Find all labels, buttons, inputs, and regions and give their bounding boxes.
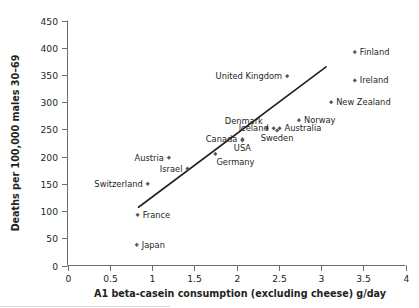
y-tick-label: 250: [40, 124, 58, 135]
data-point: Germany: [213, 152, 254, 167]
y-tick-label: 400: [40, 43, 58, 54]
data-point-marker: [136, 213, 140, 217]
y-tick-label: 300: [40, 97, 58, 108]
x-tick-label: 3.5: [356, 273, 371, 284]
data-point-marker: [146, 182, 150, 186]
data-point-marker: [167, 156, 171, 160]
x-tick-label: 2.5: [272, 273, 287, 284]
data-point: Ireland: [353, 75, 389, 85]
chart-canvas: 050100150200250300350400450 00.511.522.5…: [0, 0, 419, 308]
data-point: New Zealand: [329, 97, 391, 107]
data-point-label: USA: [234, 143, 251, 153]
data-point-label: Iceland: [239, 123, 269, 133]
y-tick-labels: 050100150200250300350400450: [40, 16, 58, 272]
y-tick-marks: [62, 22, 68, 267]
data-points-layer: FinlandIrelandNew ZealandUnited KingdomN…: [94, 47, 390, 250]
x-tick-labels: 00.511.522.533.54: [66, 273, 410, 284]
data-point-label: United Kingdom: [216, 71, 283, 81]
data-point-label: Israel: [160, 164, 183, 174]
x-tick-label: 1: [150, 273, 156, 284]
x-tick-label: 0.5: [103, 273, 118, 284]
data-point-label: Finland: [360, 47, 390, 57]
data-point-marker: [297, 118, 301, 122]
x-tick-label: 0: [66, 273, 72, 284]
data-point: France: [136, 210, 171, 220]
data-point: Australia: [277, 123, 321, 133]
y-tick-label: 50: [46, 233, 58, 244]
x-tick-label: 1.5: [187, 273, 202, 284]
x-tick-label: 3: [319, 273, 325, 284]
data-point-label: Sweden: [261, 133, 294, 143]
data-point-label: Switzerland: [94, 179, 142, 189]
data-point: Austria: [135, 153, 171, 163]
data-point-marker: [135, 243, 139, 247]
x-tick-marks: [69, 266, 407, 272]
y-tick-label: 450: [40, 16, 58, 27]
data-point: Iceland: [239, 123, 276, 133]
x-axis-title: A1 beta-casein consumption (excluding ch…: [94, 288, 387, 299]
data-point-label: Ireland: [360, 75, 389, 85]
y-tick-label: 150: [40, 179, 58, 190]
data-point-label: New Zealand: [336, 97, 391, 107]
data-point-marker: [353, 50, 357, 54]
data-point: Finland: [353, 47, 390, 57]
data-point-marker: [272, 126, 276, 130]
y-axis-title: Deaths per 100,000 males 30–69: [10, 54, 21, 231]
data-point-label: Australia: [285, 123, 322, 133]
data-point-marker: [285, 74, 289, 78]
data-point-label: Austria: [135, 153, 164, 163]
y-tick-label: 200: [40, 152, 58, 163]
x-tick-label: 4: [404, 273, 410, 284]
data-point-label: Germany: [216, 157, 254, 167]
data-point: United Kingdom: [216, 71, 290, 81]
scatter-chart-figure: 050100150200250300350400450 00.511.522.5…: [0, 0, 419, 308]
data-point-label: France: [143, 210, 171, 220]
data-point-marker: [353, 78, 357, 82]
data-point: Switzerland: [94, 179, 150, 189]
data-point-label: Canada: [206, 134, 238, 144]
x-tick-label: 2: [235, 273, 241, 284]
y-tick-label: 100: [40, 206, 58, 217]
data-point-marker: [329, 100, 333, 104]
data-point-marker: [213, 152, 217, 156]
y-tick-label: 350: [40, 70, 58, 81]
data-point: Japan: [135, 240, 165, 250]
data-point-label: Japan: [141, 240, 165, 250]
y-tick-label: 0: [52, 261, 58, 272]
